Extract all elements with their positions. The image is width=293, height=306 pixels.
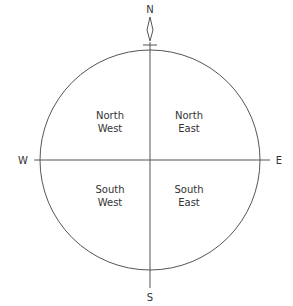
east-label: E <box>272 154 286 167</box>
north-label: N <box>144 3 156 16</box>
quadrant-north-east: North East <box>164 109 214 135</box>
quadrant-south-east: South East <box>164 183 214 209</box>
south-label: S <box>144 291 156 304</box>
compass-diagram <box>0 0 293 306</box>
quadrant-south-west: South West <box>85 183 135 209</box>
north-arrow-icon <box>147 17 153 41</box>
west-label: W <box>16 154 30 167</box>
quadrant-north-west: North West <box>85 109 135 135</box>
